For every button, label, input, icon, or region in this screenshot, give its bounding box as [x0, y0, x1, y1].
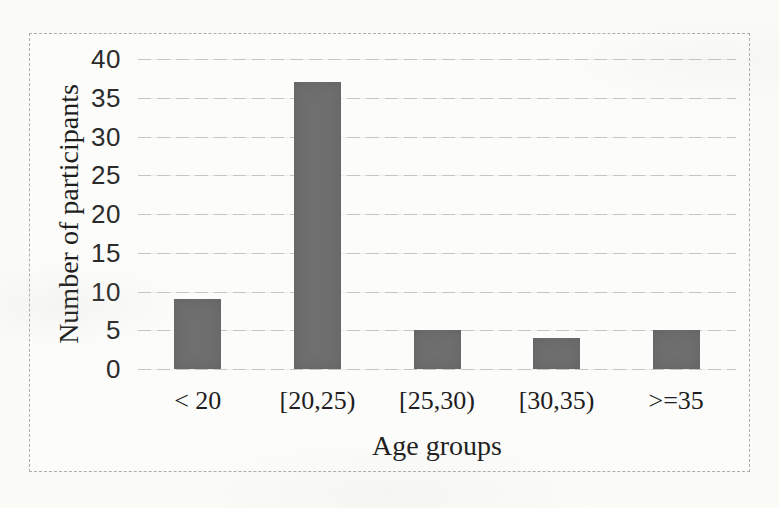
- x-axis-title: Age groups: [138, 430, 736, 462]
- gridline-y-30: [138, 137, 736, 138]
- plot-area: [138, 59, 736, 369]
- x-tick-label-4: >=35: [649, 386, 704, 416]
- x-tick-label-1: [20,25): [279, 386, 355, 416]
- figure: 0510152025303540 < 20[20,25)[25,30)[30,3…: [0, 0, 779, 508]
- x-tick-label-2: [25,30): [399, 386, 475, 416]
- gridline-y-10: [138, 292, 736, 293]
- bar-4: [653, 330, 700, 369]
- chart-box: 0510152025303540 < 20[20,25)[25,30)[30,3…: [29, 33, 750, 472]
- gridline-y-20: [138, 214, 736, 215]
- bar-3: [533, 338, 580, 369]
- bar-2: [414, 330, 461, 369]
- gridline-y-35: [138, 98, 736, 99]
- gridline-y-25: [138, 175, 736, 176]
- gridline-y-0: [138, 369, 736, 370]
- x-tick-label-3: [30,35): [519, 386, 595, 416]
- bar-0: [174, 299, 221, 369]
- gridline-y-40: [138, 59, 736, 60]
- x-axis-tick-labels: < 20[20,25)[25,30)[30,35)>=35: [138, 386, 736, 420]
- y-axis-title: Number of participants: [53, 84, 85, 344]
- y-tick-label-0: 0: [30, 354, 121, 385]
- gridline-y-15: [138, 253, 736, 254]
- x-tick-label-0: < 20: [174, 386, 221, 416]
- y-tick-label-40: 40: [30, 44, 121, 75]
- bar-1: [294, 82, 341, 369]
